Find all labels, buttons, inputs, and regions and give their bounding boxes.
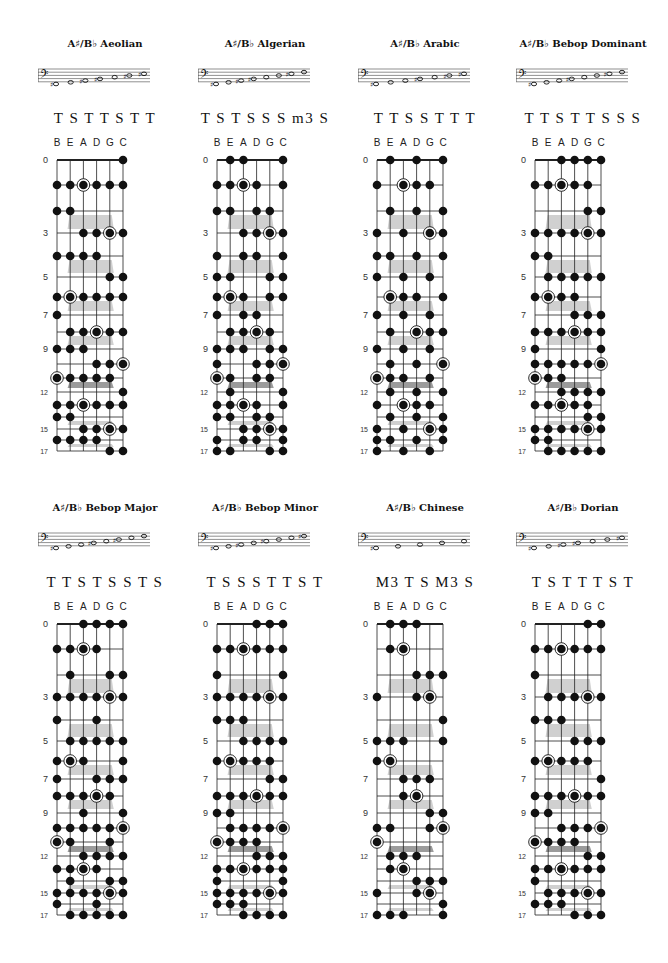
scale-note-dot [544,328,553,337]
scale-note-dot [544,436,553,445]
scale-note-dot [279,436,288,445]
scale-note-dot [252,252,261,261]
scale-note-dot [92,852,101,861]
fret-number: 17 [518,912,526,919]
scale-note-dot [106,181,115,190]
scale-note-dot [106,620,115,629]
scale-note-dot [386,293,395,302]
scale-note-dot [119,360,128,369]
fret-number: 15 [40,426,48,433]
fret-inlay [388,908,434,911]
scale-note-dot [53,775,62,784]
fret-number: 15 [40,890,48,897]
fret-inlay [228,260,274,273]
fret-inlay [388,215,434,229]
fret-inlay [68,301,114,311]
scale-note-dot [373,401,382,410]
scale-note-dot [597,447,606,456]
scale-note-dot [584,207,593,216]
scale-note-dot [106,889,115,898]
fret-inlay [388,336,434,345]
scale-note-dot [439,413,448,422]
fret-number: 9 [43,808,48,818]
scale-note-dot [557,401,566,410]
scale-note-dot [399,401,408,410]
scale-note-dot [79,345,88,354]
scale-note-dot [266,293,275,302]
fret-inlay [546,800,592,809]
scale-note-dot [386,620,395,629]
fret-number: 17 [200,448,208,455]
scale-note-dot [239,865,248,874]
scale-note-dot [53,824,62,833]
scale-note-dot [557,693,566,702]
scale-note-dot [426,425,435,434]
scale-note-dot [399,737,408,746]
scale-note-dot [92,693,101,702]
scale-note-dot [570,865,579,874]
scale-note-dot [399,273,408,282]
scale-note-dot [373,181,382,190]
scale-note-dot [66,436,75,445]
scale-note-dot [213,413,222,422]
scale-note-dot [557,889,566,898]
scale-note-dot [544,757,553,766]
scale-note-dot [279,693,288,702]
scale-note-dot [439,737,448,746]
scale-note-dot [531,809,540,818]
scale-note-dot [426,229,435,238]
scale-note-dot [373,311,382,320]
scale-note-dot [373,252,382,261]
scale-note-dot [412,293,421,302]
scale-note-dot [544,229,553,238]
fret-number: 12 [40,853,48,860]
scale-note-dot [570,757,579,766]
scale-note-dot [252,838,261,847]
scale-note-dot [439,824,448,833]
scale-note-dot [412,436,421,445]
scale-note-dot [399,645,408,654]
fret-number: 9 [363,344,368,354]
scale-note-dot [213,877,222,886]
scale-note-dot [597,273,606,282]
scale-note-dot [213,293,222,302]
scale-note-dot [226,716,235,725]
scale-note-dot [92,425,101,434]
scale-note-dot [252,436,261,445]
scale-note-dot [79,229,88,238]
scale-note-dot [439,360,448,369]
fret-number: 0 [521,619,526,629]
scale-note-dot [119,447,128,456]
fret-number: 15 [518,890,526,897]
scale-note-dot [544,865,553,874]
scale-note-dot [439,716,448,725]
scale-note-dot [279,345,288,354]
scale-note-dot [66,671,75,680]
scale-note-dot [226,388,235,397]
scale-note-dot [266,345,275,354]
fret-inlay [68,765,114,775]
scale-note-dot [92,737,101,746]
scale-note-dot [412,693,421,702]
scale-note-dot [544,401,553,410]
scale-note-dot [79,889,88,898]
scale-note-dot [584,737,593,746]
fret-number: 5 [43,272,48,282]
scale-note-dot [544,693,553,702]
scale-note-dot [570,693,579,702]
scale-note-dot [373,374,382,383]
scale-note-dot [66,792,75,801]
scale-note-dot [53,792,62,801]
scale-note-dot [66,737,75,746]
scale-note-dot [597,229,606,238]
fret-number: 9 [363,808,368,818]
scale-note-dot [266,865,275,874]
scale-note-dot [386,207,395,216]
fret-number: 9 [43,344,48,354]
scale-note-dot [53,345,62,354]
scale-note-dot [226,401,235,410]
fret-inlay [546,215,592,229]
scale-note-dot [266,852,275,861]
scale-note-dot [597,775,606,784]
scale-note-dot [412,360,421,369]
